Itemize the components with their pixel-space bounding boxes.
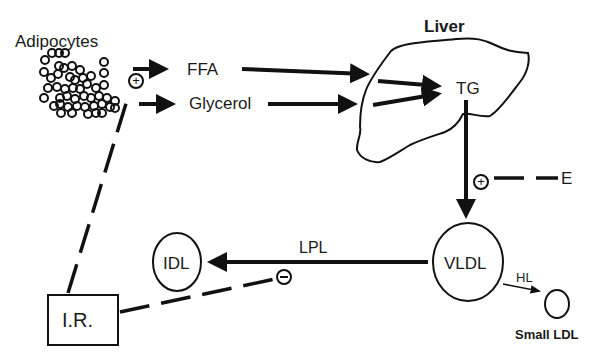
arrow-ffa-to-liver	[242, 69, 366, 74]
ir-label: I.R.	[62, 310, 93, 330]
dashed-ir-to-adipocytes	[68, 97, 128, 293]
small-ldl-label: Small LDL	[515, 328, 579, 341]
arrow-ffa-to-tg	[378, 81, 438, 86]
plus-vldl-secretion-symbol: +	[477, 174, 485, 189]
vldl-label: VLDL	[444, 255, 487, 272]
adipocyte-cluster-icon	[40, 49, 119, 118]
liver-label: Liver	[424, 18, 465, 35]
arrow-glycerol-to-tg	[373, 94, 438, 105]
hl-label: HL	[516, 271, 533, 284]
plus-adipocytes-symbol: +	[132, 73, 140, 88]
idl-label: IDL	[163, 255, 189, 272]
dashed-ir-to-lpl	[120, 279, 275, 312]
tg-label: TG	[456, 80, 480, 97]
pathway-diagram: + +	[0, 0, 614, 357]
small-ldl-circle	[545, 290, 569, 318]
arrow-vldl-to-small-ldl	[503, 284, 539, 291]
adipocytes-label: Adipocytes	[15, 33, 98, 50]
ffa-label: FFA	[187, 61, 218, 78]
liver-shape	[357, 38, 529, 162]
lpl-label: LPL	[299, 240, 327, 256]
glycerol-label: Glycerol	[189, 95, 251, 112]
e-label: E	[561, 170, 572, 187]
